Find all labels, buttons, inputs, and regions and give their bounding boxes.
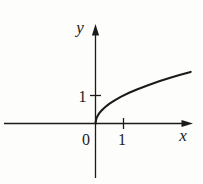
sqrt-curve: [96, 72, 191, 124]
x-axis-label: x: [178, 126, 187, 145]
graph-canvas: y x 0 1 1: [0, 0, 203, 184]
y-axis-label: y: [74, 18, 84, 37]
y-axis-arrowhead: [92, 24, 99, 36]
sqrt-function-graph: y x 0 1 1: [0, 0, 203, 184]
y-tick-1-label: 1: [79, 88, 87, 105]
origin-label: 0: [82, 131, 90, 148]
x-tick-1-label: 1: [118, 131, 126, 148]
